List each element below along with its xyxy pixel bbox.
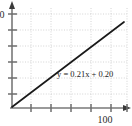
y-axis-tick-label-top: 0 xyxy=(0,9,5,20)
y-axis-arrowhead xyxy=(9,1,15,9)
gridlines-vertical xyxy=(31,8,127,108)
chart-figure: 0 100 y = 0.21x + 0.20 xyxy=(0,0,132,126)
x-axis-tick-label-100: 100 xyxy=(98,114,113,125)
equation-annotation: y = 0.21x + 0.20 xyxy=(57,69,113,79)
chart-canvas: 0 100 y = 0.21x + 0.20 xyxy=(0,0,132,126)
regression-line xyxy=(12,22,124,107)
gridlines-horizontal xyxy=(12,14,127,94)
